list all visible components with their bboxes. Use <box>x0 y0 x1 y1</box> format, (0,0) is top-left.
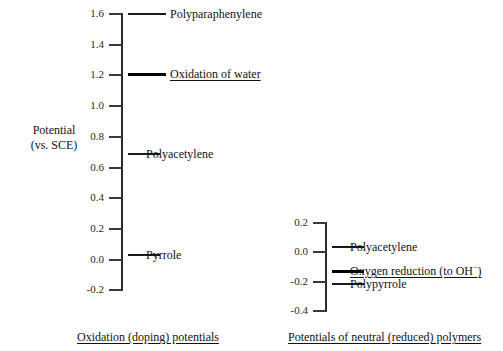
left-panel-caption: Oxidation (doping) potentials <box>77 330 219 344</box>
right-tick--0.2 <box>313 281 326 283</box>
marker-label-polypyrrole: Polypyrrole <box>350 278 407 290</box>
potential-scale-figure: Potential (vs. SCE) 1.6 1.4 1.2 1.0 0.8 … <box>0 0 503 351</box>
left-tick-label-0.2: 0.2 <box>70 223 104 234</box>
left-tick-label-0.0: 0.0 <box>70 254 104 265</box>
left-axis-spine <box>121 13 123 291</box>
left-tick-0.0 <box>109 259 122 261</box>
right-axis-spine <box>325 222 327 312</box>
right-tick-label-0.0: 0.0 <box>276 246 308 257</box>
left-tick-1.2 <box>109 74 122 76</box>
left-tick-label-0.4: 0.4 <box>70 192 104 203</box>
left-tick-0.2 <box>109 228 122 230</box>
left-tick-label--0.2: -0.2 <box>70 284 104 295</box>
left-tick-1.6 <box>109 13 122 15</box>
right-tick-label-0.2: 0.2 <box>276 217 308 228</box>
left-tick-1.0 <box>109 105 122 107</box>
right-tick--0.4 <box>313 310 326 312</box>
right-tick-0.0 <box>313 251 326 253</box>
left-tick-label-1.2: 1.2 <box>70 69 104 80</box>
marker-line-polyparaphenylene <box>128 13 166 15</box>
right-tick-label--0.2: -0.2 <box>276 276 308 287</box>
marker-line-oxidation-of-water <box>128 73 166 76</box>
right-tick-0.2 <box>313 222 326 224</box>
right-tick-label--0.4: -0.4 <box>276 305 308 316</box>
left-tick-label-1.0: 1.0 <box>70 100 104 111</box>
left-tick-0.8 <box>109 136 122 138</box>
left-tick-1.4 <box>109 44 122 46</box>
right-panel-caption: Potentials of neutral (reduced) polymers <box>288 330 481 344</box>
left-tick-label-1.4: 1.4 <box>70 39 104 50</box>
left-tick-0.6 <box>109 167 122 169</box>
left-tick-label-0.6: 0.6 <box>70 162 104 173</box>
marker-label-oxidation-of-water: Oxidation of water <box>170 68 261 80</box>
left-tick-label-0.8: 0.8 <box>70 131 104 142</box>
oxygen-reduction-text: Oxygen reduction (to OH <box>350 264 473 278</box>
marker-label-oxygen-reduction: Oxygen reduction (to OH−) <box>350 265 482 277</box>
left-tick-label-1.6: 1.6 <box>70 8 104 19</box>
left-tick--0.2 <box>109 289 122 291</box>
marker-label-right-polyacetylene: Polyacetylene <box>350 241 417 253</box>
marker-label-polyparaphenylene: Polyparaphenylene <box>170 8 262 20</box>
oxygen-reduction-tail: ) <box>478 264 482 278</box>
marker-label-polyacetylene: Polyacetylene <box>146 148 213 160</box>
left-tick-0.4 <box>109 197 122 199</box>
marker-label-pyrrole: Pyrrole <box>146 249 181 261</box>
